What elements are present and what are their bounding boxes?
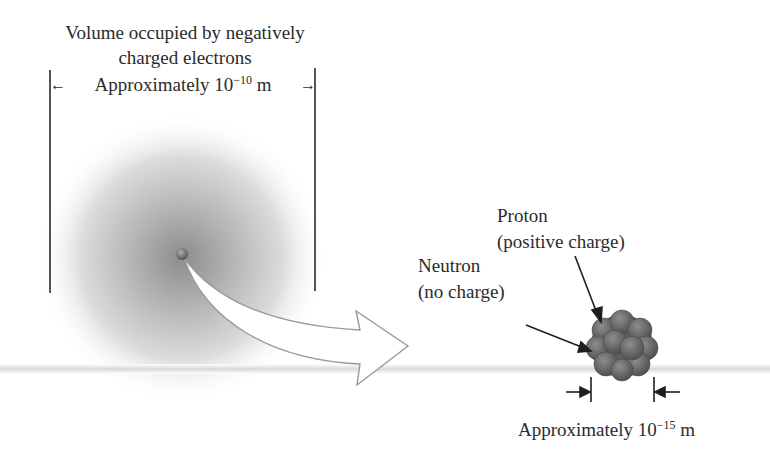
neutron-label: Neutron — [418, 253, 480, 279]
nucleus-size-exponent: −15 — [657, 418, 676, 432]
proton-desc: (positive charge) — [497, 229, 625, 255]
neutron-desc: (no charge) — [418, 279, 505, 305]
left-arrow-icon: ← — [50, 72, 66, 98]
atom-size-value: Approximately 10 — [94, 74, 233, 95]
atom-title-line1: Volume occupied by negatively — [30, 20, 340, 46]
atom-title-line2: charged electrons — [30, 45, 340, 71]
label-pointers — [526, 256, 602, 352]
atom-nucleus-dot — [176, 248, 188, 260]
atom-size-exponent: −10 — [233, 73, 252, 87]
right-arrow-icon: → — [300, 72, 316, 98]
nucleus-size-label: Approximately 10−15 m — [518, 417, 695, 443]
nucleus-size-unit: m — [680, 419, 695, 440]
atom-size-unit: m — [257, 74, 272, 95]
atom-size-label: ← Approximately 10−10 m → — [50, 72, 316, 98]
nucleus-cluster — [586, 310, 658, 381]
nucleus-size-value: Approximately 10 — [518, 419, 657, 440]
baseline-band — [0, 364, 770, 374]
proton-label: Proton — [497, 203, 548, 229]
